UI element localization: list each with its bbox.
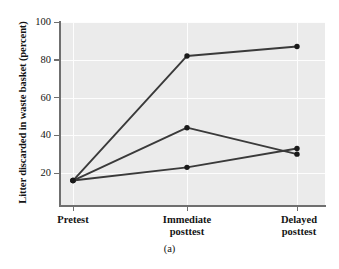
x-tick-label-immediate-line2: posttest xyxy=(170,226,204,237)
x-tick-label-delayed-line1: Delayed xyxy=(281,214,317,225)
y-tick-mark-100 xyxy=(54,22,59,23)
x-tick-label-pretest: Pretest xyxy=(23,214,123,226)
x-tick-mark-pretest xyxy=(73,206,74,211)
y-axis-line xyxy=(59,21,61,206)
x-tick-mark-delayed xyxy=(297,206,298,211)
x-tick-mark-immediate xyxy=(187,206,188,211)
gridline-x-delayed xyxy=(297,22,298,205)
gridline-y-60 xyxy=(60,98,325,99)
y-tick-label-100: 100 xyxy=(11,16,51,27)
gridline-y-80 xyxy=(60,60,325,61)
y-tick-mark-40 xyxy=(54,135,59,136)
y-tick-mark-60 xyxy=(54,97,59,98)
y-tick-label-80: 80 xyxy=(11,54,51,65)
x-axis-line xyxy=(59,205,326,207)
gridline-x-pretest xyxy=(73,22,74,205)
y-tick-mark-20 xyxy=(54,173,59,174)
x-tick-label-delayed-line2: posttest xyxy=(282,226,316,237)
x-tick-label-pretest-line1: Pretest xyxy=(57,214,88,225)
x-tick-label-delayed: Delayed posttest xyxy=(249,214,339,237)
y-tick-label-40: 40 xyxy=(11,129,51,140)
y-tick-label-60: 60 xyxy=(11,92,51,103)
gridline-y-100 xyxy=(60,22,325,23)
gridline-x-immediate xyxy=(187,22,188,205)
y-axis-title: Litter discarded in waste basket (percen… xyxy=(17,17,28,209)
figure-caption: (a) xyxy=(0,243,339,254)
figure-panel: Litter discarded in waste basket (percen… xyxy=(0,0,339,269)
plot-area xyxy=(60,22,325,205)
gridline-y-20 xyxy=(60,173,325,174)
x-tick-label-immediate: Immediate posttest xyxy=(137,214,237,237)
x-tick-label-immediate-line1: Immediate xyxy=(163,214,211,225)
y-tick-label-20: 20 xyxy=(11,167,51,178)
y-tick-mark-80 xyxy=(54,59,59,60)
gridline-y-40 xyxy=(60,135,325,136)
